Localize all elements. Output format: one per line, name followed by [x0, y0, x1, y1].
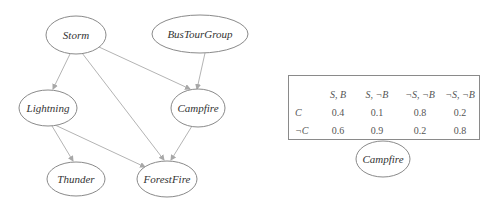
node-label: Storm [63, 29, 89, 41]
cpt-cell: 0.9 [355, 121, 399, 139]
node-storm: Storm [46, 16, 106, 54]
cpt-node-label: Campfire [362, 153, 403, 165]
edge-lightning-thunder [52, 126, 73, 161]
edge-bustourgroup-campfire [197, 53, 205, 89]
cpt-cell: 0.4 [321, 103, 355, 121]
cpt-cell: 0.8 [399, 103, 441, 121]
node-label: Campfire [177, 102, 218, 114]
cpt-cell: 0.1 [355, 103, 399, 121]
cpt-row-label: C [295, 103, 321, 121]
cpt-cell: 0.2 [441, 103, 479, 121]
node-lightning: Lightning [19, 90, 77, 126]
node-thunder: Thunder [47, 162, 105, 196]
edge-storm-lightning [53, 54, 70, 89]
edge-storm-campfire [99, 47, 190, 89]
cpt-grid: S, B S, ¬B ¬S, ¬B ¬S, ¬B C 0.4 0.1 0.8 0… [295, 85, 479, 139]
node-label: Thunder [57, 173, 95, 185]
cpt-cell: 0.8 [441, 121, 479, 139]
node-label: BusTourGroup [167, 28, 233, 40]
cpt-header-row: S, B S, ¬B ¬S, ¬B ¬S, ¬B [295, 85, 479, 103]
cpt-cell: 0.2 [399, 121, 441, 139]
cpt-column-header: ¬S, ¬B [399, 85, 441, 103]
edge-lightning-forestfire [55, 125, 145, 167]
node-campfire: Campfire [171, 89, 225, 127]
cpt-node-campfire: Campfire [356, 141, 410, 177]
cpt-column-header: S, B [321, 85, 355, 103]
cpt-cell: 0.6 [321, 121, 355, 139]
node-bustourgroup: BusTourGroup [152, 15, 248, 53]
cpt-corner [295, 85, 321, 103]
cpt-column-header: S, ¬B [355, 85, 399, 103]
cpt-row: C 0.4 0.1 0.8 0.2 [295, 103, 479, 121]
node-label: Lightning [26, 102, 70, 114]
edge-campfire-forestfire [171, 126, 192, 160]
edge-storm-forestfire [82, 53, 164, 160]
cpt-row: ¬C 0.6 0.9 0.2 0.8 [295, 121, 479, 139]
cpt-column-header: ¬S, ¬B [441, 85, 479, 103]
node-label: ForestFire [143, 173, 191, 185]
node-forestfire: ForestFire [137, 161, 197, 197]
conditional-probability-table: S, B S, ¬B ¬S, ¬B ¬S, ¬B C 0.4 0.1 0.8 0… [288, 75, 480, 140]
cpt-row-label: ¬C [295, 121, 321, 139]
